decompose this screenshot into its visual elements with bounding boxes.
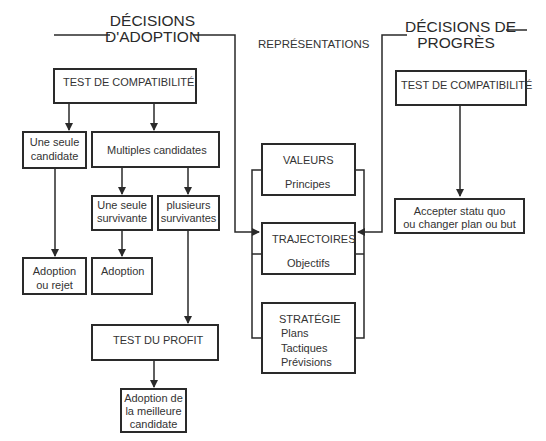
- adoption-label: Adoption: [101, 264, 144, 278]
- progress-outcome-line2: ou changer plan ou but: [396, 217, 523, 231]
- trajectories-box: TRAJECTOIRES Objectifs: [261, 222, 356, 275]
- progress-outcome-box: Accepter statu quo ou changer plan ou bu…: [394, 198, 525, 234]
- profit-test-box: TEST DU PROFIT: [91, 324, 219, 361]
- heading-progress-line1: DÉCISIONS DE: [405, 19, 507, 35]
- multiple-candidates-label: Multiples candidates: [107, 143, 207, 157]
- heading-representations: REPRÉSENTATIONS: [258, 37, 369, 51]
- single-candidate-box: Une seule candidate: [22, 131, 87, 169]
- trajectories-subtitle: Objectifs: [287, 256, 330, 270]
- values-subtitle: Principes: [285, 177, 330, 191]
- multiple-candidates-box: Multiples candidates: [91, 131, 220, 168]
- single-survivor-box: Une seule survivante: [91, 195, 153, 231]
- strategy-item-plans: Plans: [281, 326, 309, 340]
- single-candidate-line2: candidate: [24, 149, 85, 163]
- best-adoption-line3: candidate: [122, 417, 185, 431]
- best-adoption-line2: la meilleure: [122, 404, 185, 418]
- compat-test-label: TEST DE COMPATIBILITÉ: [63, 75, 194, 89]
- adopt-or-reject-line2: ou rejet: [24, 278, 85, 292]
- profit-test-label: TEST DU PROFIT: [113, 333, 203, 347]
- adopt-or-reject-line1: Adoption: [24, 264, 85, 278]
- heading-adoption-line2: D'ADOPTION: [105, 29, 200, 45]
- several-survivors-line2: survivantes: [159, 211, 218, 225]
- single-candidate-line1: Une seule: [24, 135, 85, 149]
- values-title: VALEURS: [283, 153, 334, 167]
- heading-progress-line2: PROGRÈS: [405, 35, 507, 51]
- best-adoption-line1: Adoption de: [122, 391, 185, 405]
- adopt-or-reject-box: Adoption ou rejet: [22, 257, 87, 295]
- heading-adoption-line1: DÉCISIONS: [105, 13, 200, 29]
- strategy-box: STRATÉGIE Plans Tactiques Prévisions: [261, 302, 356, 374]
- progress-compat-test-label: TEST DE COMPATIBILITÉ: [401, 78, 532, 92]
- single-survivor-line1: Une seule: [93, 198, 151, 212]
- strategy-item-forecasts: Prévisions: [281, 355, 332, 369]
- compat-test-box-adoption: TEST DE COMPATIBILITÉ: [53, 68, 197, 104]
- several-survivors-box: plusieurs survivantes: [157, 195, 220, 231]
- compat-test-box-progress: TEST DE COMPATIBILITÉ: [395, 70, 527, 106]
- progress-outcome-line1: Accepter statu quo: [396, 204, 523, 218]
- strategy-title: STRATÉGIE: [279, 312, 341, 326]
- strategy-item-tactics: Tactiques: [281, 341, 327, 355]
- trajectories-title: TRAJECTOIRES: [272, 232, 356, 246]
- single-survivor-line2: survivante: [93, 211, 151, 225]
- best-adoption-box: Adoption de la meilleure candidate: [120, 388, 187, 433]
- adoption-box: Adoption: [91, 257, 153, 295]
- several-survivors-line1: plusieurs: [159, 198, 218, 212]
- values-box: VALEURS Principes: [261, 143, 356, 196]
